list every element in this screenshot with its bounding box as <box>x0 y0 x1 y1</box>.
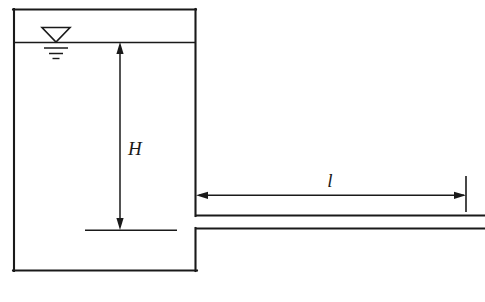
length-dimension: l <box>196 170 466 212</box>
head-arrow-up-head <box>116 42 123 54</box>
discharge-pipe <box>196 216 484 229</box>
head-arrow-down-head <box>116 218 123 230</box>
hydraulic-diagram: H l <box>0 0 485 302</box>
head-label: H <box>127 138 143 159</box>
length-arrow-left-head <box>196 192 208 199</box>
diagram-canvas: H l <box>0 0 485 302</box>
free-surface-triangle <box>42 28 70 43</box>
tank-outline <box>13 9 197 271</box>
head-dimension: H <box>85 42 177 230</box>
length-label: l <box>327 170 332 191</box>
length-arrow-right-head <box>454 192 466 199</box>
